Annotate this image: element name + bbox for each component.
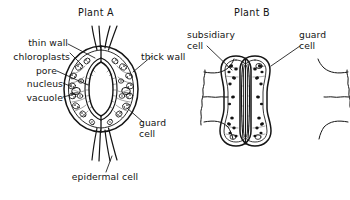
plant-a-stoma <box>64 26 138 161</box>
panel-title-plant-a: Plant A <box>66 8 126 19</box>
plant-b-stoma <box>201 56 350 146</box>
label-guard-cell-plant-b: guard cell <box>299 30 341 51</box>
panel-title-plant-b: Plant B <box>222 8 282 19</box>
label-subsidiary-cell: subsidiary cell <box>187 30 255 51</box>
label-thick-wall: thick wall <box>141 52 201 63</box>
label-chloroplasts: chloroplasts <box>0 52 70 63</box>
label-pore: pore <box>0 66 57 77</box>
label-epidermal-cell: epidermal cell <box>55 172 155 183</box>
label-nucleus: nucleus <box>0 79 63 90</box>
label-thin-wall: thin wall <box>0 38 68 49</box>
label-vacuole: vacuole <box>0 93 63 104</box>
label-guard-cell-plant-a: guard cell <box>139 118 181 139</box>
stomata-comparison-figure: Plant A Plant B thin wall chloroplasts p… <box>0 0 350 200</box>
